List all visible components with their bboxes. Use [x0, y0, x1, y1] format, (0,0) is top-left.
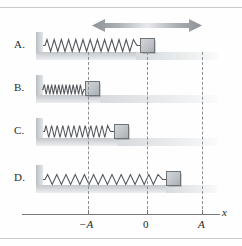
- dashed-line-plus-a: [202, 52, 203, 214]
- dashed-line-minus-a: [88, 52, 89, 214]
- floor-fade-b: [100, 95, 218, 103]
- x-axis-tick-zero: [147, 210, 148, 215]
- block-d: [166, 171, 181, 186]
- floor-fade-d: [166, 185, 218, 193]
- x-axis-label-plus-a: A: [198, 218, 205, 230]
- dashed-line-zero: [147, 52, 148, 214]
- option-c: C.: [0, 116, 242, 158]
- x-axis-variable-label: x: [222, 206, 227, 218]
- spring-a: [43, 38, 141, 57]
- floor-fade-c: [118, 138, 218, 146]
- block-c: [114, 124, 129, 139]
- x-axis-tick-minus-a: [88, 210, 89, 215]
- floor-fade-a: [136, 52, 218, 60]
- spring-d: [43, 172, 167, 190]
- bottom-rule: [0, 238, 242, 239]
- spring-c: [43, 124, 115, 143]
- x-axis-tick-plus-a: [202, 210, 203, 215]
- option-b-label: B.: [14, 81, 25, 93]
- option-b: B.: [0, 73, 242, 115]
- option-a-label: A.: [14, 38, 25, 50]
- spring-b: [42, 82, 86, 100]
- option-d: D.: [0, 163, 242, 205]
- option-d-label: D.: [14, 171, 25, 183]
- physics-figure: A. B. C.: [0, 0, 242, 246]
- option-c-label: C.: [14, 124, 25, 136]
- option-a: A.: [0, 30, 242, 72]
- top-rule: [0, 7, 242, 8]
- wall-a: [36, 32, 43, 52]
- x-axis-line: [22, 214, 220, 215]
- wall-c: [36, 118, 43, 138]
- x-axis-label-minus-a: −A: [79, 218, 93, 230]
- x-axis-label-zero: 0: [143, 218, 149, 230]
- block-a: [140, 38, 155, 53]
- wall-d: [36, 165, 43, 185]
